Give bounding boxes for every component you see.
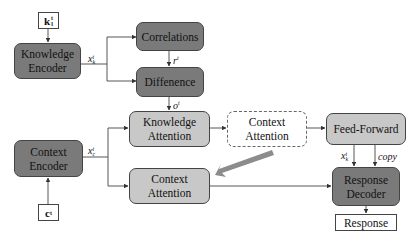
knowledge-input: ktl bbox=[38, 12, 59, 29]
difference-node: Diffenence bbox=[136, 67, 204, 97]
xk-sub: k bbox=[92, 60, 95, 65]
knowledge-encoder-label-1: Knowledge bbox=[21, 47, 74, 61]
copy-label: copy bbox=[378, 151, 397, 162]
correlations-label: Correlations bbox=[142, 30, 199, 44]
rt-sup: t bbox=[177, 55, 179, 61]
edge-label-ot: ot bbox=[173, 98, 180, 111]
feed-forward-label: Feed-Forward bbox=[333, 122, 398, 136]
knowledge-attention-label-1: Knowledge bbox=[143, 115, 196, 129]
correlations-node: Correlations bbox=[136, 22, 204, 51]
edge-label-xk: xtk bbox=[88, 54, 95, 65]
context-attention-label-2: Attention bbox=[148, 186, 191, 200]
ot-sup: t bbox=[178, 100, 180, 106]
context-attention-dashed-label-2: Attention bbox=[245, 129, 288, 143]
knowledge-encoder-node: KnowledgeEncoder bbox=[14, 43, 81, 79]
knowledge-input-symbol: k bbox=[44, 14, 50, 28]
edge-label-copy: copy bbox=[378, 152, 397, 162]
edge-label-xc: xtc bbox=[88, 146, 95, 157]
big-arrow-icon bbox=[215, 150, 274, 177]
difference-label: Diffenence bbox=[145, 75, 196, 89]
response-label: Response bbox=[344, 216, 388, 230]
context-encoder-label-2: Encoder bbox=[29, 159, 67, 173]
knowledge-input-sub: l bbox=[51, 21, 53, 27]
context-attention-label-1: Context bbox=[148, 172, 191, 186]
edge-label-xk-decoder: xtk bbox=[341, 151, 348, 162]
response-decoder-label-1: Response bbox=[344, 173, 388, 187]
feed-forward-node: Feed-Forward bbox=[326, 113, 406, 145]
response-decoder-label-2: Decoder bbox=[344, 187, 388, 201]
context-attention-node: ContextAttention bbox=[129, 168, 210, 204]
edge-label-rt: rt bbox=[173, 53, 179, 66]
context-input: ct bbox=[38, 204, 59, 221]
xk-dec-sub: k bbox=[345, 157, 348, 162]
response-output: Response bbox=[335, 214, 397, 231]
response-decoder-node: ResponseDecoder bbox=[332, 167, 400, 206]
knowledge-attention-node: KnowledgeAttention bbox=[129, 111, 210, 147]
knowledge-attention-label-2: Attention bbox=[143, 129, 196, 143]
context-attention-dashed-node: ContextAttention bbox=[227, 111, 307, 147]
context-attention-dashed-label-1: Context bbox=[245, 115, 288, 129]
xc-sub: c bbox=[92, 152, 95, 157]
context-input-sup: t bbox=[50, 206, 52, 220]
knowledge-encoder-label-2: Encoder bbox=[21, 61, 74, 75]
context-encoder-label-1: Context bbox=[29, 145, 67, 159]
context-encoder-node: ContextEncoder bbox=[14, 140, 83, 177]
